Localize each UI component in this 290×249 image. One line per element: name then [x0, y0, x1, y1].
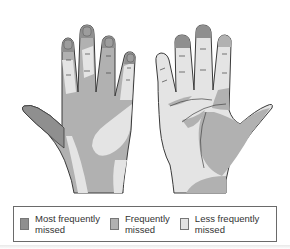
legend-item-most-frequently-missed: Most frequently missed [20, 213, 100, 235]
legend-item-frequently-missed: Frequently missed [110, 213, 170, 235]
legend-label: Less frequently missed [195, 213, 259, 235]
legend-label: Frequently missed [125, 213, 170, 235]
legend: Most frequently missed Frequently missed… [13, 206, 277, 242]
legend-item-less-frequently-missed: Less frequently missed [180, 213, 259, 235]
bottom-shadow [0, 245, 290, 249]
swatch-less-frequently-missed [180, 218, 189, 230]
swatch-most-frequently-missed [20, 218, 29, 230]
back-of-hand-illustration [22, 25, 135, 193]
swatch-frequently-missed [110, 218, 119, 230]
hand-washing-diagram [0, 0, 290, 200]
palm-of-hand-illustration [156, 25, 273, 193]
legend-label: Most frequently missed [35, 213, 100, 235]
